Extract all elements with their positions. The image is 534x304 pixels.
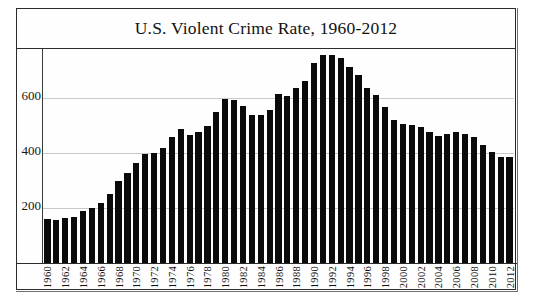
x-tick-label-2010: 2010: [487, 266, 498, 288]
chart-title: U.S. Violent Crime Rate, 1960-2012: [135, 18, 398, 39]
bar-1968: [115, 181, 121, 263]
title-band: U.S. Violent Crime Rate, 1960-2012: [17, 9, 515, 49]
bar-1993: [338, 58, 344, 263]
bar-2007: [462, 134, 468, 263]
y-tick-label-200: 200: [22, 198, 42, 214]
bar-1969: [124, 173, 130, 263]
bar-2011: [498, 157, 504, 263]
bar-2010: [489, 152, 495, 263]
x-tick-label-2008: 2008: [469, 266, 480, 288]
x-tick-label-1996: 1996: [362, 266, 373, 288]
bar-2008: [471, 137, 477, 263]
x-tick-label-1980: 1980: [220, 266, 231, 288]
y-tick-label-600: 600: [22, 88, 42, 104]
bar-1999: [391, 120, 397, 263]
x-tick-label-1962: 1962: [60, 266, 71, 288]
bar-1962: [62, 218, 68, 263]
bar-1997: [373, 95, 379, 263]
x-tick-label-1970: 1970: [131, 266, 142, 288]
bar-1966: [98, 203, 104, 263]
x-tick-label-1966: 1966: [96, 266, 107, 288]
bar-1992: [329, 55, 335, 263]
plot-area: [43, 49, 514, 263]
x-tick-label-1990: 1990: [309, 266, 320, 288]
x-tick-label-1964: 1964: [78, 266, 89, 288]
bar-1977: [195, 132, 201, 263]
bar-1978: [204, 126, 210, 263]
x-tick-label-1984: 1984: [256, 266, 267, 288]
x-tick-label-1986: 1986: [274, 266, 285, 288]
x-tick-label-1998: 1998: [380, 266, 391, 288]
x-tick-label-1992: 1992: [327, 266, 338, 288]
x-tick-label-1978: 1978: [202, 266, 213, 288]
bar-1972: [151, 153, 157, 263]
bar-1970: [133, 163, 139, 263]
x-tick-label-2006: 2006: [451, 266, 462, 288]
bar-1960: [44, 219, 50, 263]
x-tick-label-2000: 2000: [398, 266, 409, 288]
bar-1973: [160, 148, 166, 263]
bar-1961: [53, 220, 59, 263]
bar-1986: [275, 94, 281, 263]
bar-1971: [142, 154, 148, 263]
bar-1982: [240, 106, 246, 263]
y-tick-label-400: 400: [22, 143, 42, 159]
bar-2006: [453, 132, 459, 264]
x-tick-label-1972: 1972: [149, 266, 160, 288]
bar-1989: [302, 81, 308, 263]
bar-1995: [355, 75, 361, 263]
bar-1988: [293, 88, 299, 263]
bar-1983: [249, 115, 255, 263]
bar-2009: [480, 145, 486, 263]
x-tick-label-1974: 1974: [167, 266, 178, 288]
figure-frame: U.S. Violent Crime Rate, 1960-2012 20040…: [16, 8, 516, 290]
x-tick-label-2002: 2002: [416, 266, 427, 288]
bar-2003: [426, 132, 432, 263]
x-tick-label-1976: 1976: [185, 266, 196, 288]
bar-1998: [382, 107, 388, 263]
bar-2005: [444, 134, 450, 263]
bar-1987: [284, 96, 290, 263]
bar-1967: [107, 194, 113, 263]
x-tick-label-1988: 1988: [291, 266, 302, 288]
bar-1963: [71, 217, 77, 263]
bar-1965: [89, 208, 95, 263]
bar-2012: [506, 157, 512, 263]
x-tick-label-1968: 1968: [114, 266, 125, 288]
bar-series: [43, 49, 514, 263]
bar-1990: [311, 63, 317, 263]
bar-1979: [213, 112, 219, 263]
bar-1980: [222, 99, 228, 263]
x-tick-label-1960: 1960: [42, 266, 53, 288]
y-axis: 200400600: [17, 49, 43, 263]
bar-2001: [409, 125, 415, 263]
x-tick-label-1994: 1994: [345, 266, 356, 288]
bar-2002: [418, 127, 424, 263]
bar-2004: [435, 136, 441, 263]
bar-2000: [400, 124, 406, 263]
bar-1974: [169, 137, 175, 264]
x-tick-label-2012: 2012: [505, 266, 516, 288]
x-tick-label-1982: 1982: [238, 266, 249, 288]
bar-1994: [346, 67, 352, 263]
x-axis-tick-labels: 1960196219641966196819701972197419761978…: [43, 264, 514, 304]
y-axis-line: [42, 49, 43, 263]
bar-1984: [258, 115, 264, 263]
bar-1975: [178, 129, 184, 263]
x-tick-label-2004: 2004: [433, 266, 444, 288]
bar-1981: [231, 100, 237, 263]
bar-1991: [320, 55, 326, 263]
bar-1964: [80, 211, 86, 263]
bar-1976: [187, 135, 193, 263]
bar-1985: [267, 110, 273, 263]
plot-region: 200400600 196019621964196619681970197219…: [17, 49, 515, 291]
bar-1996: [364, 88, 370, 263]
